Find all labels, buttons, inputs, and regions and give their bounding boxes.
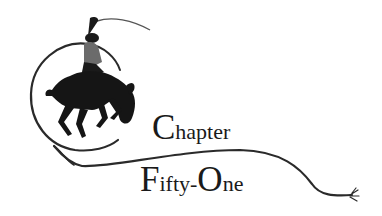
chapter-initial: C	[152, 108, 175, 147]
chapter-rest: hapter	[175, 119, 230, 144]
number-rest-2: ne	[223, 171, 244, 196]
number-initial-o: O	[197, 160, 222, 199]
chapter-heading: Chapter	[152, 110, 230, 145]
bucking-horse-icon	[45, 71, 135, 138]
chapter-number-heading: Fifty-One	[140, 162, 243, 197]
whip-icon	[97, 19, 150, 30]
number-initial-f: F	[140, 160, 159, 199]
number-rest-1: ifty-	[159, 171, 197, 196]
